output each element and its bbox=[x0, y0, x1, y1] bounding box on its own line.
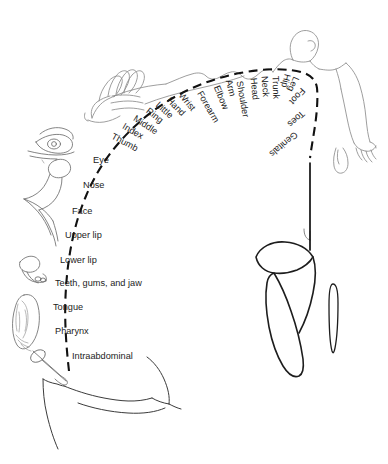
cortex-outline bbox=[43, 357, 181, 449]
arc-label-neck: Neck bbox=[260, 76, 271, 98]
cropped-caption-sliver bbox=[0, 456, 388, 464]
arc-label-face: Face bbox=[72, 206, 92, 216]
arc-label-intraabdominal: Intraabdominal bbox=[72, 351, 133, 361]
foot-toes-drawing bbox=[256, 242, 315, 377]
homunculus-diagram-canvas: Thumb Index Middle Ring Little Hand Wris… bbox=[0, 0, 388, 464]
arc-label-teeth-gums-and-jaw: Teeth, gums, and jaw bbox=[55, 278, 142, 288]
genitals-drawing bbox=[329, 284, 338, 353]
arc-label-trunk: Trunk bbox=[271, 76, 282, 100]
pharynx-drawing bbox=[28, 347, 67, 385]
horizontal-label-group: Eye Nose Face Upper lip Lower lip Teeth,… bbox=[53, 155, 142, 361]
homunculus-figure: Thumb Index Middle Ring Little Hand Wris… bbox=[0, 0, 388, 464]
arc-label-pharynx: Pharynx bbox=[55, 326, 89, 336]
homunculus-arm bbox=[334, 63, 376, 173]
homunculus-body-group bbox=[84, 30, 376, 173]
tongue-drawing bbox=[13, 294, 40, 351]
arc-label-eye: Eye bbox=[93, 155, 109, 165]
arc-label-lower-lip: Lower lip bbox=[60, 255, 97, 265]
arc-label-shoulder: Shoulder bbox=[235, 80, 251, 118]
nose-face-drawing bbox=[24, 159, 71, 246]
arc-label-genitals: Genitals bbox=[267, 130, 300, 160]
right-organ-drawings bbox=[256, 229, 338, 377]
arc-label-nose: Nose bbox=[83, 180, 104, 190]
teeth-jaw-drawing bbox=[19, 256, 46, 283]
arc-label-tongue: Tongue bbox=[53, 302, 83, 312]
eye-drawing bbox=[28, 128, 74, 163]
arc-label-upper-lip: Upper lip bbox=[65, 230, 102, 240]
arc-label-toes: Toes bbox=[285, 109, 306, 130]
arc-label-head: Head bbox=[249, 77, 261, 100]
